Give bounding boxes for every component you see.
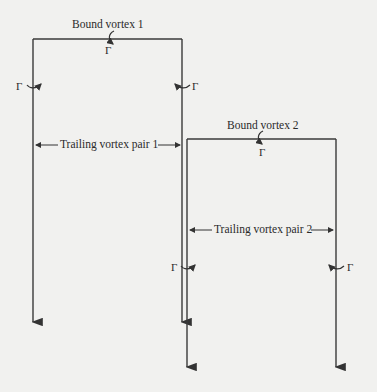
gamma-bound-1: Γ <box>105 44 111 56</box>
horseshoe-vortex-diagram <box>0 0 377 392</box>
gamma-bound-2: Γ <box>259 146 265 158</box>
circulation-arrow-left-2 <box>181 265 195 269</box>
bound-vortex-1-label: Bound vortex 1 <box>72 18 144 30</box>
bound-vortex-2-label: Bound vortex 2 <box>227 119 299 131</box>
trailing-vortex-pair-1-label: Trailing vortex pair 1 <box>60 138 158 150</box>
horseshoe-vortex-2 <box>181 131 344 367</box>
trailing-vortex-pair-2-label: Trailing vortex pair 2 <box>214 223 312 235</box>
horseshoe-vortex-1 <box>27 31 190 322</box>
gamma-left-2: Γ <box>171 261 177 273</box>
gamma-right-2: Γ <box>347 261 353 273</box>
gamma-left-1: Γ <box>16 80 22 92</box>
circulation-arrow-left-1 <box>27 84 41 88</box>
circulation-arrow-bound-1 <box>109 31 114 44</box>
gamma-right-1: Γ <box>192 80 198 92</box>
circulation-arrow-bound-2 <box>258 131 263 144</box>
